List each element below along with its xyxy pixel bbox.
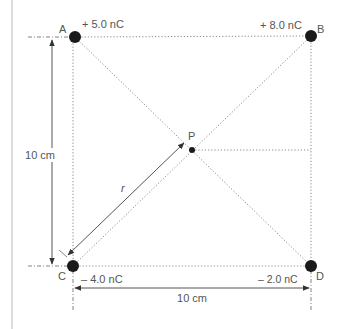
point-p [189,147,195,153]
charge-c [67,260,79,272]
charge-label-c: – 4.0 nC [81,273,123,285]
label-p: P [188,130,195,142]
charge-b [305,30,317,42]
radius-arrow [68,143,184,255]
charge-label-b: + 8.0 nC [260,19,302,31]
horizontal-dimension-label: 10 cm [177,292,207,304]
label-a: A [59,23,67,35]
radius-label: r [121,182,126,194]
label-c: C [58,270,66,282]
label-b: B [317,23,324,35]
charge-a [69,31,81,43]
square-charges-diagram: 10 cm 10 cm r A + 5.0 nC B + 8.0 nC C – … [0,0,342,329]
label-d: D [316,270,324,282]
vertical-dimension-label: 10 cm [25,149,55,161]
charge-label-d: – 2.0 nC [258,273,298,285]
c-tick [59,250,67,257]
charge-label-a: + 5.0 nC [82,18,124,30]
